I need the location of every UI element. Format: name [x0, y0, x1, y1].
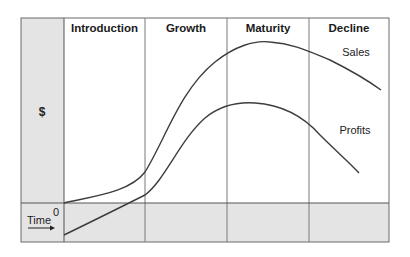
- y-axis-label: $: [39, 105, 46, 119]
- stage-header-decline: Decline: [329, 22, 370, 34]
- x-axis-label: Time: [27, 214, 51, 226]
- profits-label: Profits: [339, 124, 371, 136]
- stage-header-maturity: Maturity: [246, 22, 291, 34]
- stage-header-growth: Growth: [166, 22, 206, 34]
- product-life-cycle-diagram: Introduction Growth Maturity Decline Sal…: [0, 0, 410, 257]
- x-axis-panel: [21, 203, 389, 242]
- origin-label: 0: [53, 206, 59, 218]
- stage-header-introduction: Introduction: [71, 22, 138, 34]
- sales-label: Sales: [342, 46, 370, 58]
